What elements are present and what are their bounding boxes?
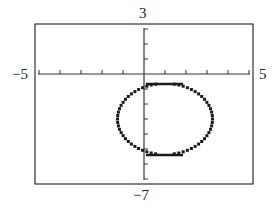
- xmax-label: 5: [259, 67, 267, 82]
- ymin-label: −7: [133, 188, 149, 203]
- y-axis: [144, 28, 148, 180]
- ymax-label: 3: [139, 6, 147, 21]
- ellipse-curve: [116, 83, 214, 156]
- xmin-label: −5: [12, 67, 28, 82]
- graph-canvas: [0, 0, 278, 212]
